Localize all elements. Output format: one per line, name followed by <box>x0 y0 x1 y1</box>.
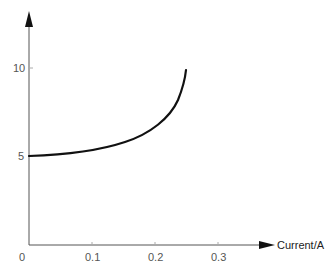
x-tick-label-0-3: 0.3 <box>211 251 226 263</box>
data-curve <box>29 70 186 156</box>
chart-canvas: 5 10 0 0.1 0.2 0.3 Current/A <box>0 0 331 271</box>
x-axis-arrow-icon <box>259 241 275 249</box>
x-tick-label-0-2: 0.2 <box>148 251 163 263</box>
y-axis-arrow-icon <box>25 11 33 27</box>
x-tick-label-0-1: 0.1 <box>85 251 100 263</box>
y-tick-label-5: 5 <box>18 150 24 162</box>
x-axis-label: Current/A <box>277 239 325 251</box>
x-tick-label-0: 0 <box>19 251 25 263</box>
y-tick-label-10: 10 <box>13 62 25 74</box>
